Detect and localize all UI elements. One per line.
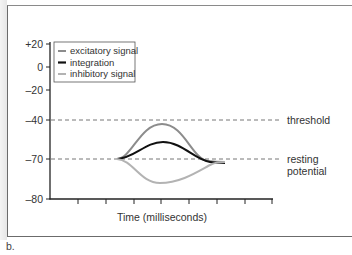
resting-potential-label-line1: resting	[287, 153, 319, 165]
legend-item-inhibitory: inhibitory signal	[70, 68, 135, 79]
threshold-label: threshold	[287, 114, 330, 126]
resting-potential-label-line2: potential	[287, 165, 327, 177]
y-tick-label: –80	[25, 193, 43, 205]
y-tick-label: –40	[25, 114, 43, 126]
panel-label: b.	[6, 240, 15, 252]
y-tick-label: 0	[37, 61, 43, 73]
y-tick-label: +20	[25, 38, 43, 50]
legend-item-integration: integration	[70, 57, 114, 68]
y-tick-label: –70	[25, 153, 43, 165]
legend-item-excitatory: excitatory signal	[70, 45, 138, 56]
legend: excitatory signal integration inhibitory…	[54, 42, 138, 82]
x-ticks	[78, 199, 272, 204]
y-tick-label: –20	[25, 84, 43, 96]
x-axis-label: Time (milliseconds)	[117, 211, 207, 223]
